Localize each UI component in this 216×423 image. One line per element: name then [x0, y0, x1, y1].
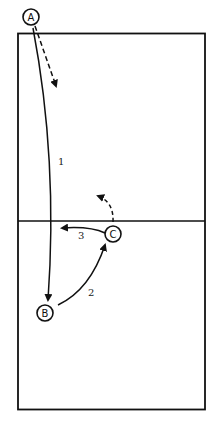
court-diagram: A B C 1 2 3 — [0, 0, 216, 423]
path-2-label: 2 — [88, 287, 94, 298]
path-2-arrow — [58, 245, 105, 305]
dashed-arrow-c — [98, 196, 113, 222]
path-1-arrow — [33, 28, 51, 300]
player-c: C — [105, 226, 121, 242]
player-a: A — [23, 9, 39, 25]
svg-text:B: B — [42, 308, 49, 319]
player-b: B — [37, 305, 53, 321]
svg-text:C: C — [110, 229, 117, 240]
path-3-label: 3 — [78, 230, 84, 241]
svg-text:A: A — [28, 12, 35, 23]
path-1-label: 1 — [58, 156, 64, 167]
